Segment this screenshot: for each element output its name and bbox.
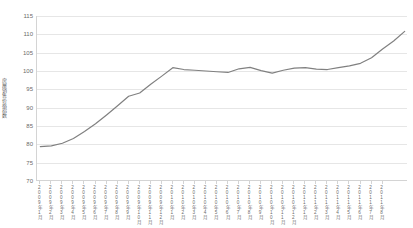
x-tick-label: 2009年6月 (92, 185, 97, 220)
x-tick-mark (260, 181, 261, 184)
x-tick-mark (293, 181, 294, 184)
y-tick-label: 110 (23, 31, 33, 37)
x-tick-mark (315, 181, 316, 184)
x-tick-mark (95, 181, 96, 184)
x-tick-mark (348, 181, 349, 184)
x-axis-tick-labels: 2009年1月2009年2月2009年3月2009年4月2009年5月2009年… (36, 185, 407, 228)
x-tick-mark (360, 181, 361, 184)
x-tick-label: 2011年5月 (346, 185, 351, 220)
x-tick-label: 2010年10月 (269, 185, 274, 225)
x-tick-label: 2010年11月 (280, 185, 285, 225)
x-tick-mark (50, 181, 51, 184)
x-tick-label: 2009年12月 (158, 185, 163, 225)
x-tick-mark (139, 181, 140, 184)
x-tick-mark (271, 181, 272, 184)
x-tick-mark (117, 181, 118, 184)
y-tick-label: 70 (26, 178, 33, 184)
y-tick-label: 85 (26, 123, 33, 129)
x-tick-mark (172, 181, 173, 184)
x-tick-mark (205, 181, 206, 184)
y-tick-label: 80 (26, 141, 33, 147)
x-tick-label: 2011年6月 (357, 185, 362, 220)
y-tick-label: 115 (23, 13, 33, 19)
x-tick-mark (249, 181, 250, 184)
x-tick-mark (106, 181, 107, 184)
x-tick-mark (150, 181, 151, 184)
x-tick-label: 2009年10月 (136, 185, 141, 225)
x-tick-label: 2010年8月 (247, 185, 252, 220)
x-tick-mark (227, 181, 228, 184)
x-tick-label: 2011年2月 (313, 185, 318, 220)
series-line (37, 16, 408, 181)
y-tick-label: 105 (23, 50, 33, 56)
x-tick-label: 2009年4月 (70, 185, 75, 220)
x-tick-mark (304, 181, 305, 184)
x-tick-label: 2010年5月 (213, 185, 218, 220)
x-tick-mark (326, 181, 327, 184)
y-tick-label: 95 (26, 86, 33, 92)
x-tick-label: 2011年4月 (335, 185, 340, 220)
x-tick-mark (83, 181, 84, 184)
y-axis-title: 房屋销售价格指数 (0, 0, 14, 228)
x-tick-label: 2009年7月 (103, 185, 108, 220)
x-tick-label: 2011年1月 (302, 185, 307, 220)
x-tick-label: 2009年1月 (37, 185, 42, 220)
x-tick-mark (382, 181, 383, 184)
x-tick-label: 2009年2月 (48, 185, 53, 220)
data-polyline (40, 31, 404, 146)
x-tick-mark (238, 181, 239, 184)
x-tick-label: 2010年2月 (180, 185, 185, 220)
x-tick-mark (337, 181, 338, 184)
x-tick-label: 2010年9月 (258, 185, 263, 220)
x-tick-label: 2010年1月 (169, 185, 174, 220)
y-tick-label: 90 (26, 105, 33, 111)
x-tick-label: 2009年11月 (147, 185, 152, 225)
x-tick-label: 2009年5月 (81, 185, 86, 220)
x-tick-mark (282, 181, 283, 184)
x-tick-mark (128, 181, 129, 184)
x-tick-mark (216, 181, 217, 184)
x-tick-mark (61, 181, 62, 184)
x-tick-mark (39, 181, 40, 184)
x-tick-label: 2011年8月 (379, 185, 384, 220)
x-tick-label: 2010年3月 (191, 185, 196, 220)
line-chart: 房屋销售价格指数 707580859095100105110115 2009年1… (0, 0, 413, 228)
x-tick-mark (371, 181, 372, 184)
y-axis-tick-labels: 707580859095100105110115 (14, 0, 35, 228)
x-tick-label: 2009年9月 (125, 185, 130, 220)
x-tick-label: 2010年12月 (291, 185, 296, 225)
x-tick-label: 2010年7月 (236, 185, 241, 220)
x-tick-label: 2010年4月 (202, 185, 207, 220)
x-tick-mark (194, 181, 195, 184)
x-tick-label: 2009年8月 (114, 185, 119, 220)
y-tick-label: 100 (23, 68, 33, 74)
x-tick-label: 2010年6月 (225, 185, 230, 220)
y-tick-label: 75 (26, 160, 33, 166)
x-tick-mark (183, 181, 184, 184)
y-axis-title-label: 房屋销售价格指数 (1, 78, 7, 118)
x-tick-label: 2011年3月 (324, 185, 329, 220)
plot-area (36, 16, 407, 181)
x-tick-mark (72, 181, 73, 184)
x-tick-label: 2011年7月 (368, 185, 373, 220)
x-tick-label: 2009年3月 (59, 185, 64, 220)
x-tick-mark (161, 181, 162, 184)
